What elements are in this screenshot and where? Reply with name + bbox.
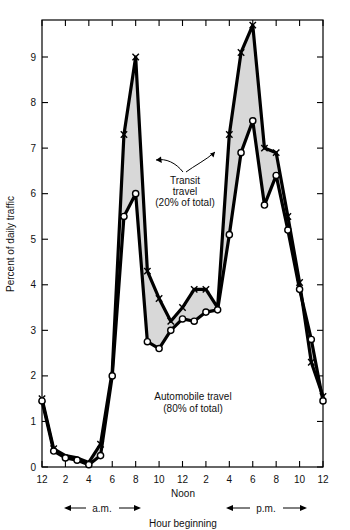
y-tick-label: 3	[30, 325, 36, 336]
marker-circle	[238, 150, 244, 156]
y-tick-label: 4	[30, 279, 36, 290]
marker-circle	[109, 373, 115, 379]
x-tick-label: 10	[294, 474, 306, 485]
y-tick-label: 0	[30, 462, 36, 473]
pm-label: p.m.	[256, 503, 275, 514]
marker-circle	[191, 318, 197, 324]
marker-circle	[308, 336, 314, 342]
marker-circle	[133, 191, 139, 197]
y-tick-label: 1	[30, 416, 36, 427]
noon-label: Noon	[171, 488, 195, 499]
y-tick-label: 7	[30, 143, 36, 154]
marker-circle	[273, 172, 279, 178]
marker-circle	[320, 398, 326, 404]
chart-svg: 0123456789 122468101224681012 Transit tr…	[0, 0, 350, 530]
marker-circle	[97, 453, 103, 459]
marker-circle	[74, 457, 80, 463]
marker-circle	[86, 462, 92, 468]
x-tick-label: 12	[177, 474, 189, 485]
marker-circle	[121, 213, 127, 219]
marker-circle	[156, 345, 162, 351]
marker-circle	[39, 398, 45, 404]
marker-circle	[261, 202, 267, 208]
x-axis-title: Hour beginning	[149, 518, 217, 529]
marker-circle	[296, 286, 302, 292]
x-tick-label: 6	[250, 474, 256, 485]
marker-circle	[215, 307, 221, 313]
am-label: a.m.	[92, 503, 111, 514]
marker-circle	[51, 448, 57, 454]
x-tick-label: 6	[109, 474, 115, 485]
transit-travel-line3: (20% of total)	[155, 197, 214, 208]
y-tick-label: 9	[30, 52, 36, 63]
automobile-travel-line2: (80% of total)	[163, 403, 222, 414]
transit-travel-line2: travel	[173, 186, 197, 197]
transit-travel-line1: Transit	[170, 175, 200, 186]
y-tick-label: 5	[30, 234, 36, 245]
y-tick-label: 8	[30, 97, 36, 108]
marker-circle	[285, 227, 291, 233]
marker-circle	[203, 309, 209, 315]
x-tick-label: 8	[133, 474, 139, 485]
y-tick-label: 2	[30, 370, 36, 381]
x-tick-label: 2	[203, 474, 209, 485]
marker-circle	[250, 118, 256, 124]
marker-circle	[179, 316, 185, 322]
traffic-distribution-chart: 0123456789 122468101224681012 Transit tr…	[0, 0, 350, 530]
x-tick-label: 4	[227, 474, 233, 485]
y-tick-label: 6	[30, 188, 36, 199]
marker-circle	[226, 232, 232, 238]
x-tick-label: 2	[63, 474, 69, 485]
x-tick-label: 10	[154, 474, 166, 485]
x-tick-label: 8	[273, 474, 279, 485]
x-tick-label: 12	[317, 474, 329, 485]
marker-circle	[144, 339, 150, 345]
marker-circle	[62, 455, 68, 461]
marker-circle	[168, 327, 174, 333]
x-tick-label: 4	[86, 474, 92, 485]
x-tick-label: 12	[36, 474, 48, 485]
y-axis-title: Percent of daily traffic	[5, 196, 16, 292]
automobile-travel-line1: Automobile travel	[154, 391, 231, 402]
